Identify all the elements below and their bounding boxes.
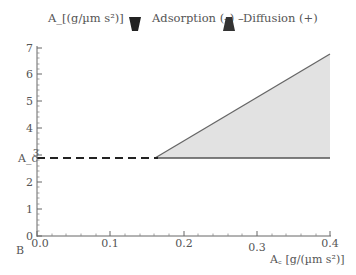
threshold-label: A_c bbox=[17, 152, 38, 165]
y-major-ticks bbox=[37, 48, 42, 236]
y-tick-6: 6 bbox=[26, 68, 33, 81]
x-tick-2: 0.2 bbox=[175, 237, 193, 250]
y-tick-1: 1 bbox=[26, 203, 33, 216]
y-tick-5: 5 bbox=[26, 95, 33, 108]
y-tick-4: 4 bbox=[26, 122, 33, 135]
x-tick-1: 0.1 bbox=[101, 237, 119, 250]
y-tick-2: 2 bbox=[26, 176, 33, 189]
x-axis-label: A꜀ [g/(µm s²)] bbox=[269, 253, 345, 266]
chart-plot: 0 1 2 3 4 5 6 7 A_c 0.0 0.1 0.2 0.3 0.4 … bbox=[0, 0, 356, 275]
x-tick-3: 0.3 bbox=[248, 241, 266, 254]
x-tick-0: 0.0 bbox=[31, 237, 49, 250]
x-tick-4: 0.4 bbox=[321, 237, 339, 250]
panel-label: B bbox=[16, 244, 24, 257]
y-tick-7: 7 bbox=[26, 42, 33, 55]
